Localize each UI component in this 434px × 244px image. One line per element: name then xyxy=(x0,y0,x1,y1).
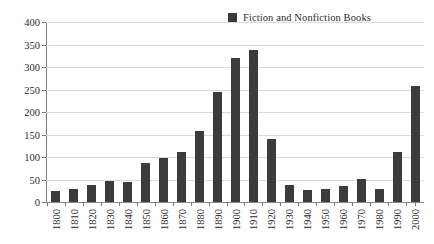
bar-1940 xyxy=(303,190,312,202)
y-tick-label-250: 250 xyxy=(0,84,40,95)
bar-slot xyxy=(137,22,155,202)
x-tick-mark xyxy=(262,202,263,206)
x-tick-mark xyxy=(388,202,389,206)
bar-slot xyxy=(334,22,352,202)
bar-1990 xyxy=(393,152,402,202)
x-tick-label-1950: 1950 xyxy=(320,209,331,230)
x-tick-mark xyxy=(155,202,156,206)
x-tick-mark xyxy=(280,202,281,206)
y-tick-mark-50 xyxy=(42,180,46,181)
bar-slot xyxy=(47,22,65,202)
x-tick-mark xyxy=(47,202,48,206)
y-tick-label-400: 400 xyxy=(0,17,40,28)
bar-1950 xyxy=(321,189,330,202)
x-tick-mark xyxy=(406,202,407,206)
x-tick-label-1820: 1820 xyxy=(86,209,97,230)
x-tick-label-1890: 1890 xyxy=(212,209,223,230)
bar-series xyxy=(47,22,424,202)
bar-1820 xyxy=(87,185,96,202)
plot-area xyxy=(46,22,424,202)
y-tick-label-300: 300 xyxy=(0,62,40,73)
bar-slot xyxy=(65,22,83,202)
y-tick-mark-200 xyxy=(42,112,46,113)
bar-slot xyxy=(262,22,280,202)
bar-slot xyxy=(370,22,388,202)
bar-1870 xyxy=(177,152,186,202)
bar-1900 xyxy=(231,58,240,202)
bar-1830 xyxy=(105,181,114,202)
x-tick-label-1900: 1900 xyxy=(230,209,241,230)
bar-slot xyxy=(155,22,173,202)
x-tick-mark xyxy=(83,202,84,206)
x-tick-label-1850: 1850 xyxy=(140,209,151,230)
bar-1800 xyxy=(51,191,60,202)
y-tick-label-50: 50 xyxy=(0,174,40,185)
x-tick-label-1980: 1980 xyxy=(374,209,385,230)
bar-slot xyxy=(119,22,137,202)
x-tick-label-1910: 1910 xyxy=(248,209,259,230)
bar-slot xyxy=(244,22,262,202)
x-tick-mark xyxy=(101,202,102,206)
x-tick-mark xyxy=(334,202,335,206)
y-tick-mark-300 xyxy=(42,67,46,68)
x-tick-mark xyxy=(227,202,228,206)
x-tick-mark xyxy=(119,202,120,206)
bar-slot xyxy=(101,22,119,202)
x-tick-label-1960: 1960 xyxy=(338,209,349,230)
x-tick-mark xyxy=(209,202,210,206)
y-tick-mark-350 xyxy=(42,45,46,46)
x-tick-mark xyxy=(244,202,245,206)
bar-chart: Fiction and Nonfiction Books 05010015020… xyxy=(0,0,434,244)
x-tick-label-1810: 1810 xyxy=(68,209,79,230)
x-tick-label-1880: 1880 xyxy=(194,209,205,230)
bar-1970 xyxy=(357,179,366,202)
bar-slot xyxy=(191,22,209,202)
x-axis-labels: 1800181018201830184018501860187018801890… xyxy=(47,202,424,244)
y-tick-mark-100 xyxy=(42,157,46,158)
x-tick-label-1940: 1940 xyxy=(302,209,313,230)
bar-slot xyxy=(298,22,316,202)
bar-1810 xyxy=(69,189,78,203)
x-tick-label-1970: 1970 xyxy=(356,209,367,230)
bar-slot xyxy=(406,22,424,202)
bar-1960 xyxy=(339,186,348,202)
bar-1880 xyxy=(195,131,204,202)
bar-slot xyxy=(316,22,334,202)
y-tick-label-200: 200 xyxy=(0,107,40,118)
x-tick-label-1840: 1840 xyxy=(122,209,133,230)
x-tick-label-1930: 1930 xyxy=(284,209,295,230)
bar-slot xyxy=(388,22,406,202)
bar-1890 xyxy=(213,92,222,202)
bar-1860 xyxy=(159,158,168,202)
x-tick-mark xyxy=(370,202,371,206)
y-tick-mark-0 xyxy=(42,202,46,203)
x-tick-label-1990: 1990 xyxy=(392,209,403,230)
bar-slot xyxy=(352,22,370,202)
x-tick-mark xyxy=(65,202,66,206)
x-tick-mark xyxy=(298,202,299,206)
bar-1850 xyxy=(141,163,150,202)
x-tick-label-1800: 1800 xyxy=(50,209,61,230)
x-tick-label-1860: 1860 xyxy=(158,209,169,230)
x-tick-mark xyxy=(415,202,416,206)
y-tick-label-150: 150 xyxy=(0,129,40,140)
bar-1980 xyxy=(375,189,384,203)
bar-1840 xyxy=(123,182,132,202)
x-tick-mark xyxy=(191,202,192,206)
y-tick-mark-400 xyxy=(42,22,46,23)
bar-2000 xyxy=(411,86,420,202)
bar-1920 xyxy=(267,139,276,202)
bar-slot xyxy=(173,22,191,202)
x-tick-label-1920: 1920 xyxy=(266,209,277,230)
x-tick-label-1870: 1870 xyxy=(176,209,187,230)
bar-slot xyxy=(83,22,101,202)
y-tick-label-0: 0 xyxy=(0,197,40,208)
legend-swatch-icon xyxy=(228,13,237,22)
y-tick-label-100: 100 xyxy=(0,152,40,163)
x-tick-mark xyxy=(316,202,317,206)
x-tick-label-2000: 2000 xyxy=(410,209,421,230)
y-tick-label-350: 350 xyxy=(0,39,40,50)
x-tick-label-1830: 1830 xyxy=(104,209,115,230)
bar-1910 xyxy=(249,50,258,202)
y-tick-mark-250 xyxy=(42,90,46,91)
